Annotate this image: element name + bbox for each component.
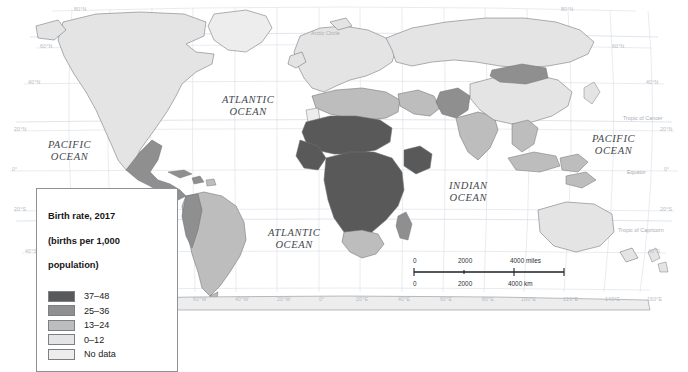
legend-item-37-48: 37–48 — [48, 291, 167, 302]
ocean-label-line1: PACIFIC — [48, 139, 91, 151]
lat-label-left-60n: 60°N — [40, 43, 52, 49]
lon-label-100e: 100°E — [521, 296, 536, 302]
lat-label-right-60n: 60°N — [612, 43, 624, 49]
lon-label-20w: 20°W — [277, 296, 291, 302]
map-scalebar: 0 2000 4000 miles 0 2000 4000 km — [414, 257, 564, 287]
arctic-circle-label: Arctic Circle — [311, 30, 340, 36]
ocean-label-line1: INDIAN — [449, 180, 488, 192]
lon-label-80e: 80°E — [482, 296, 494, 302]
lon-label-20e: 20°E — [356, 296, 368, 302]
legend-swatch-37-48 — [48, 291, 75, 302]
legend-swatch-no-data — [48, 349, 75, 360]
legend-item-13-24: 13–24 — [48, 320, 167, 331]
tropic-of-cancer-label: Tropic of Cancer — [623, 115, 663, 121]
lon-label-140e: 140°E — [605, 296, 620, 302]
ocean-label-line2: OCEAN — [48, 151, 91, 163]
ocean-label-line1: ATLANTIC — [222, 94, 274, 106]
tropic-of-capricorn-label: Tropic of Capricorn — [618, 227, 664, 233]
legend-label-13-24: 13–24 — [84, 320, 109, 330]
ocean-label-atlantic-south: ATLANTIC OCEAN — [268, 227, 320, 252]
scalebar-km-row: 0 2000 4000 km — [414, 278, 564, 287]
scalebar-km-tick-4000: 4000 km — [508, 280, 533, 287]
landmass-south-america — [182, 192, 246, 304]
landmass-central-africa — [324, 146, 432, 238]
landmass-greenland — [208, 10, 272, 52]
ocean-label-atlantic-north: ATLANTIC OCEAN — [222, 94, 274, 119]
legend-label-37-48: 37–48 — [84, 291, 109, 301]
legend-item-0-12: 0–12 — [48, 334, 167, 345]
ocean-label-line1: ATLANTIC — [268, 227, 320, 239]
lon-label-60e: 60°E — [440, 296, 452, 302]
landmass-north-africa — [312, 88, 440, 120]
legend-item-no-data: No data — [48, 349, 167, 360]
equator-label: Equator — [627, 169, 646, 175]
legend-label-0-12: 0–12 — [84, 335, 104, 345]
lon-label-120e: 120°E — [563, 296, 578, 302]
legend-title-line-3: population) — [48, 259, 167, 271]
lat-label-left-40n: 40°N — [28, 79, 40, 85]
lat-label-left-80n: 80°N — [74, 6, 86, 12]
ocean-label-pacific-west: PACIFIC OCEAN — [48, 139, 91, 164]
legend-label-no-data: No data — [84, 349, 116, 359]
ocean-label-line1: PACIFIC — [592, 133, 635, 145]
scalebar-km-tick-2000: 2000 — [458, 280, 472, 287]
map-legend: Birth rate, 2017 (births per 1,000 popul… — [36, 188, 178, 372]
ocean-label-indian: INDIAN OCEAN — [449, 180, 488, 205]
landmass-japan — [584, 82, 600, 104]
lat-label-right-20s: 20°S — [660, 206, 672, 212]
lon-label-0: 0° — [319, 296, 324, 302]
scalebar-miles-tick-0: 0 — [413, 257, 417, 264]
ocean-label-line2: OCEAN — [268, 239, 320, 251]
landmass-south-central-asia — [436, 88, 470, 118]
lat-label-left-0: 0° — [12, 166, 17, 172]
legend-title: Birth rate, 2017 (births per 1,000 popul… — [48, 198, 167, 284]
lon-label-60w: 60°W — [193, 296, 207, 302]
landmass-southern-africa — [342, 230, 384, 258]
scalebar-km-tick-0: 0 — [413, 280, 417, 287]
landmass-madagascar — [396, 212, 412, 240]
legend-item-25-36: 25–36 — [48, 305, 167, 316]
legend-label-25-36: 25–36 — [84, 306, 109, 316]
landmass-caribbean — [168, 170, 216, 186]
ocean-label-line2: OCEAN — [449, 192, 488, 204]
landmass-southeast-asia — [508, 120, 596, 188]
legend-title-line-1: Birth rate, 2017 — [48, 210, 167, 222]
legend-title-line-2: (births per 1,000 — [48, 235, 167, 247]
legend-swatch-25-36 — [48, 305, 75, 316]
lat-label-right-40n: 40°N — [646, 79, 658, 85]
landmass-russia — [386, 18, 594, 68]
scalebar-miles-tick-2000: 2000 — [458, 257, 472, 264]
ocean-label-line2: OCEAN — [222, 106, 274, 118]
scalebar-miles-tick-4000: 4000 miles — [510, 257, 541, 264]
lat-label-right-0: 0° — [664, 166, 669, 172]
lat-label-right-20n: 20°N — [660, 126, 672, 132]
lon-label-40e: 40°E — [398, 296, 410, 302]
landmass-india — [456, 112, 498, 160]
lat-label-right-40s: 40°S — [648, 248, 660, 254]
lat-label-right-80n: 80°N — [561, 6, 573, 12]
legend-swatch-0-12 — [48, 334, 75, 345]
scalebar-miles-row: 0 2000 4000 miles — [414, 257, 564, 266]
lon-label-40w: 40°W — [235, 296, 249, 302]
lon-label-160e: 160°E — [647, 296, 662, 302]
lat-label-left-20n: 20°N — [14, 126, 26, 132]
ocean-label-pacific-east: PACIFIC OCEAN — [592, 133, 635, 158]
legend-swatch-13-24 — [48, 320, 75, 331]
lat-label-left-20s: 20°S — [14, 206, 26, 212]
ocean-label-line2: OCEAN — [592, 145, 635, 157]
